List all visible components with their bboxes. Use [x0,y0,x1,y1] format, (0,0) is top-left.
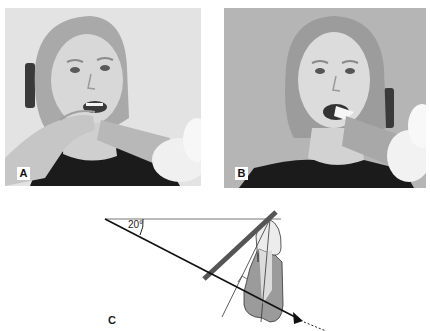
photo-panel-a: A [5,8,201,186]
patient-photo-a [5,8,201,186]
patient-photo-b [224,8,426,188]
ray-arrowhead [293,312,303,324]
photo-panel-b: B [224,8,426,188]
panel-label-c: C [108,314,116,326]
panel-label-b: B [235,167,248,180]
bisecting-angle-diagram [0,190,430,331]
dashed-ray-extension [304,322,326,331]
panel-label-a: A [17,167,30,180]
angle-label: 20° [128,219,143,230]
